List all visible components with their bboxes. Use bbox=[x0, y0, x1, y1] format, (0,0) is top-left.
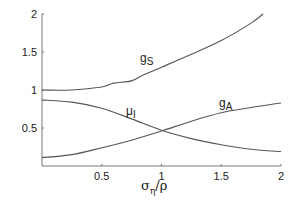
y-tick-label: 1 bbox=[31, 84, 37, 96]
curve-labels: gSμIgA bbox=[126, 51, 233, 120]
y-ticks: 0.511.52 bbox=[22, 8, 44, 134]
y-tick-label: 0.5 bbox=[22, 122, 37, 134]
label-mu-i: μI bbox=[126, 104, 136, 120]
x-tick-label: 0.5 bbox=[94, 170, 109, 182]
line-chart: 0.511.52 0.511.52 gSμIgA ση/ρ bbox=[0, 0, 293, 203]
y-tick-label: 1.5 bbox=[22, 46, 37, 58]
x-axis-label: ση/ρ bbox=[141, 178, 167, 196]
curve-mu-i bbox=[42, 100, 281, 152]
x-ticks: 0.511.52 bbox=[94, 164, 284, 182]
curve-g-s bbox=[42, 14, 263, 90]
y-tick-label: 2 bbox=[31, 8, 37, 20]
curves bbox=[42, 14, 281, 158]
label-g-a: gA bbox=[219, 96, 233, 112]
label-g-s: gS bbox=[140, 51, 154, 67]
x-tick-label: 2 bbox=[278, 170, 284, 182]
x-tick-label: 1.5 bbox=[214, 170, 229, 182]
